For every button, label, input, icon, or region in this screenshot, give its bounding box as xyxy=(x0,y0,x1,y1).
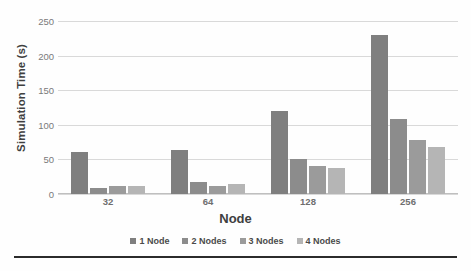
bar-group xyxy=(258,21,358,194)
bar xyxy=(328,168,345,194)
y-axis-tick-label: 50 xyxy=(43,154,54,165)
bar xyxy=(228,184,245,194)
bar xyxy=(90,188,107,194)
bottom-divider xyxy=(14,256,457,258)
y-axis-tick-label: 0 xyxy=(49,189,54,200)
legend-swatch-icon xyxy=(297,238,303,244)
bar xyxy=(109,186,126,194)
bar-chart: Simulation Time (s) 050100150200250 3264… xyxy=(0,0,471,271)
legend: 1 Node2 Nodes3 Nodes4 Nodes xyxy=(0,236,471,246)
bar xyxy=(171,150,188,194)
legend-item[interactable]: 2 Nodes xyxy=(182,236,226,246)
x-axis-title: Node xyxy=(0,211,471,226)
bar xyxy=(209,186,226,194)
bar xyxy=(428,147,445,194)
x-axis-tick-label: 64 xyxy=(158,196,258,212)
gridline xyxy=(58,194,458,195)
y-axis-tick-labels: 050100150200250 xyxy=(28,14,54,194)
bar xyxy=(309,166,326,194)
bar xyxy=(271,111,288,194)
legend-label: 2 Nodes xyxy=(191,236,226,246)
x-axis-tick-label: 256 xyxy=(358,196,458,212)
x-axis-tick-label: 128 xyxy=(258,196,358,212)
bar xyxy=(190,182,207,194)
y-axis-tick-label: 200 xyxy=(38,50,54,61)
bar xyxy=(290,159,307,194)
bar xyxy=(128,186,145,194)
x-axis-tick-labels: 3264128256 xyxy=(58,196,458,212)
y-axis-title-text: Simulation Time (s) xyxy=(15,44,27,152)
legend-swatch-icon xyxy=(130,238,136,244)
bar-group xyxy=(58,21,158,194)
y-axis-tick-label: 100 xyxy=(38,119,54,130)
bar xyxy=(371,35,388,194)
plot-area xyxy=(58,21,458,194)
legend-label: 3 Nodes xyxy=(249,236,284,246)
bar xyxy=(71,152,88,194)
bar-group xyxy=(158,21,258,194)
x-axis-tick-label: 32 xyxy=(58,196,158,212)
bar xyxy=(390,119,407,194)
y-axis-tick-label: 150 xyxy=(38,85,54,96)
y-axis-tick-label: 250 xyxy=(38,16,54,27)
bar-group xyxy=(358,21,458,194)
legend-label: 1 Node xyxy=(139,236,169,246)
legend-item[interactable]: 1 Node xyxy=(130,236,169,246)
legend-item[interactable]: 3 Nodes xyxy=(240,236,284,246)
legend-label: 4 Nodes xyxy=(306,236,341,246)
bar xyxy=(409,140,426,194)
legend-swatch-icon xyxy=(240,238,246,244)
bar-groups xyxy=(58,21,458,194)
legend-item[interactable]: 4 Nodes xyxy=(297,236,341,246)
legend-swatch-icon xyxy=(182,238,188,244)
